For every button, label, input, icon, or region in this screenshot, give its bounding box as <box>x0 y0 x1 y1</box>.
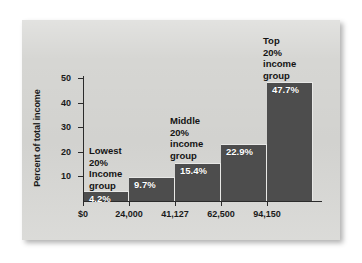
annotation-lowest-group: Lowest 20% Income group <box>89 145 122 191</box>
bar-segment-2[interactable]: 15.4% <box>175 163 221 202</box>
x-tick-0 <box>83 201 84 206</box>
bar-value-label-2: 15.4% <box>180 165 207 176</box>
x-tick-label-4: 94,150 <box>253 209 281 219</box>
bar-top-edge <box>267 82 313 83</box>
y-tick-label-50: 50 <box>61 73 71 83</box>
y-tick-label-30: 30 <box>61 122 71 132</box>
y-tick-30: 30 <box>78 127 83 128</box>
x-tick-label-1: 24,000 <box>115 209 143 219</box>
chart-panel: Percent of total income 10 20 30 40 50 $… <box>22 20 340 240</box>
y-tick-label-40: 40 <box>61 98 71 108</box>
annotation-line: Income <box>89 168 122 180</box>
x-tick-3 <box>221 201 222 206</box>
y-tick-label-10: 10 <box>61 171 71 181</box>
x-tick-4 <box>267 201 268 206</box>
annotation-line: group <box>263 70 296 82</box>
x-tick-1 <box>129 201 130 206</box>
annotation-line: income <box>170 138 203 150</box>
bar-value-label-3: 22.9% <box>226 146 253 157</box>
annotation-line: Middle <box>170 115 203 127</box>
annotation-line: 20% <box>263 47 296 59</box>
y-tick-label-20: 20 <box>61 147 71 157</box>
bar-value-label-1: 9.7% <box>134 179 156 190</box>
x-tick-label-2: 41,127 <box>161 209 189 219</box>
annotation-line: 20% <box>89 157 122 169</box>
annotation-line: group <box>170 150 203 162</box>
y-axis-line <box>83 76 84 202</box>
bar-top-edge <box>129 177 175 178</box>
x-tick-label-0: $0 <box>78 209 88 219</box>
annotation-top-group: Top 20% income group <box>263 35 296 81</box>
y-tick-50: 50 <box>78 78 83 79</box>
bar-segment-1[interactable]: 9.7% <box>129 177 175 201</box>
bar-segment-3[interactable]: 22.9% <box>221 144 267 201</box>
bar-segment-0[interactable]: 4.2% <box>84 191 129 202</box>
x-tick-2 <box>175 201 176 206</box>
bar-value-label-4: 47.7% <box>272 84 299 95</box>
x-tick-label-3: 62,500 <box>207 209 235 219</box>
y-tick-20: 20 <box>78 152 83 153</box>
annotation-line: Top <box>263 35 296 47</box>
x-axis-line <box>83 201 322 202</box>
bar-top-edge <box>175 163 221 164</box>
bar-top-edge <box>221 144 267 145</box>
annotation-line: Lowest <box>89 145 122 157</box>
bar-value-label-0: 4.2% <box>89 193 111 204</box>
annotation-middle-group: Middle 20% income group <box>170 115 203 161</box>
annotation-line: 20% <box>170 127 203 139</box>
y-tick-40: 40 <box>78 103 83 104</box>
y-axis-title: Percent of total income <box>32 72 42 204</box>
annotation-line: income <box>263 58 296 70</box>
y-tick-10: 10 <box>78 176 83 177</box>
annotation-line: group <box>89 180 122 192</box>
bar-right-edge <box>312 82 313 201</box>
bar-segment-4[interactable]: 47.7% <box>267 82 313 201</box>
